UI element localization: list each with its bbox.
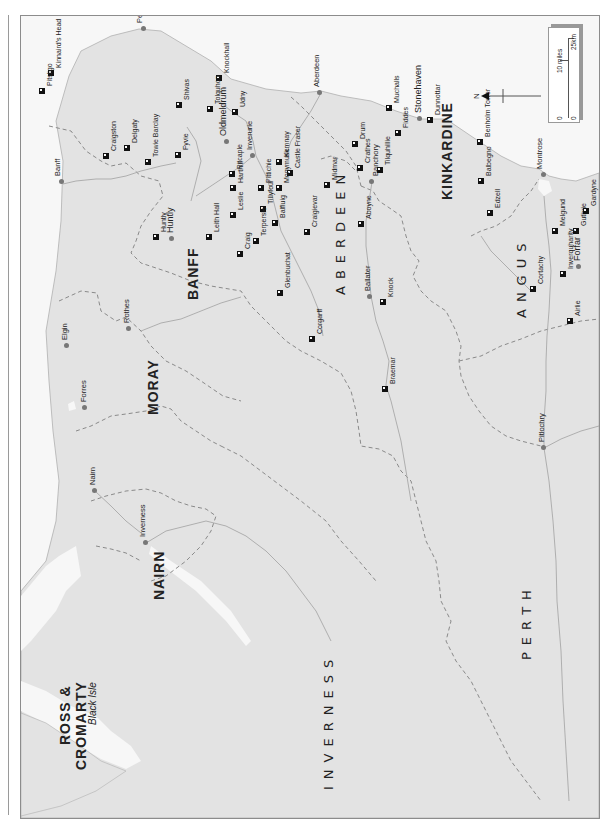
county-label-perth: PERTH (520, 583, 533, 660)
castle-icon (477, 139, 483, 145)
castle-icon (103, 153, 109, 159)
castle-label-delgaty: Delgaty (131, 119, 138, 143)
north-arrow: N (473, 89, 543, 107)
town-label-forfar: Forfar (573, 237, 582, 261)
town-dot-icon (317, 90, 322, 95)
castle-label-drum: Drum (359, 122, 366, 139)
castle-icon (229, 171, 235, 177)
town-dot-icon (126, 326, 131, 331)
castle-icon (309, 336, 315, 342)
castle-label-craigievar: Craigievar (311, 195, 318, 227)
scale-bar-line (568, 38, 569, 118)
castle-label-knockhall: Knockhall (223, 43, 230, 73)
castle-icon (276, 159, 282, 165)
town-label-peterhead: Peterhead (136, 15, 144, 23)
castle-label-tolquhon: Tolquhon (214, 76, 221, 104)
town-dot-icon (82, 405, 87, 410)
county-label-aberdeen: ABERDEEN (334, 168, 347, 295)
castle-label-gardyne: Gardyne (590, 179, 597, 206)
castle-label-tilquhillie: Tilquhillie (384, 136, 391, 165)
castle-label-leslie: Leslie (237, 192, 244, 210)
land-mass (21, 29, 599, 818)
castle-label-shivas: Shivas (183, 79, 190, 100)
county-label-moray: MORAY (146, 359, 160, 415)
town-dot-icon (169, 236, 174, 241)
castle-label-glenbuchat: Glenbuchat (284, 252, 291, 288)
castle-label-castle-fraser: Castle Fraser (294, 126, 301, 168)
castle-icon (276, 185, 282, 191)
castle-label-melgund: Melgund (559, 199, 566, 226)
castle-icon (272, 220, 278, 226)
scale-bar: 10 miles 25km 0 0 (548, 27, 580, 123)
county-label-cromarty: CROMARTY (74, 681, 88, 770)
castle-label-corgarff: Corgarff (316, 309, 323, 334)
town-label-rothes: Rothes (123, 299, 131, 323)
castle-label-harthill: Harthill (237, 161, 244, 183)
scale-label-zero-miles: 0 (556, 116, 563, 120)
town-dot-icon (367, 294, 372, 299)
castle-icon (357, 165, 363, 171)
castle-icon (487, 210, 493, 216)
town-label-nairn: Nairn (89, 467, 97, 485)
town-label-inverurie: Inverurie (246, 121, 254, 150)
castle-label-towie-barclay: Towie Barclay (152, 114, 159, 157)
castle-label-braemar: Braemar (389, 357, 396, 384)
town-label-stonehaven: Stonehaven (414, 65, 423, 113)
town-dot-icon (250, 153, 255, 158)
castle-icon (258, 185, 264, 191)
county-label-kinkardine: KINKARDINE (440, 102, 454, 200)
castle-label-pitsligo: Pitsligo (46, 63, 53, 86)
castle-icon (560, 271, 566, 277)
castle-icon (567, 318, 573, 324)
town-label-pitlochry: Pitlochry (538, 413, 546, 442)
castle-label-monymusk: Monymusk (283, 149, 290, 183)
castle-icon (386, 105, 392, 111)
castle-icon (380, 299, 386, 305)
castle-icon (478, 178, 484, 184)
town-label-ballater: Ballater (364, 266, 372, 291)
island-label-black-isle: Black Isle (88, 682, 98, 725)
castle-icon (382, 386, 388, 392)
castle-icon (124, 145, 130, 151)
castle-label-knock: Knock (387, 278, 394, 297)
castle-icon (583, 208, 589, 214)
county-label-inverness: INVERNESS (322, 653, 335, 790)
map-canvas (21, 16, 599, 818)
castle-label-drum-huntly: Huntly (160, 212, 167, 232)
castle-icon (530, 286, 536, 292)
castle-label-balbegno: Balbegno (485, 146, 492, 176)
town-dot-icon (417, 116, 422, 121)
north-label: N (472, 93, 481, 99)
town-label-banff: Banff (54, 159, 62, 176)
castle-icon (207, 106, 213, 112)
castle-label-cortachy: Cortachy (537, 256, 544, 284)
castle-icon (232, 109, 238, 115)
castle-icon (352, 141, 358, 147)
castle-label-terpersie: Terpersie (260, 207, 267, 236)
castle-label-balfluig: Balfluig (279, 195, 286, 218)
castle-icon (304, 229, 310, 235)
castle-icon (153, 234, 159, 240)
town-dot-icon (59, 179, 64, 184)
castle-label-aboyne: Aboyne (365, 195, 372, 219)
castle-icon (206, 234, 212, 240)
castle-icon (324, 182, 330, 188)
castle-icon (39, 88, 45, 94)
castle-icon (145, 159, 151, 165)
castle-label-crathes: Crathes (364, 138, 371, 163)
castle-icon (358, 221, 364, 227)
map-frame[interactable]: ROSS &CROMARTYNAIRNMORAYBANFFINVERNESSAB… (20, 15, 600, 819)
scale-label-miles: 10 miles (556, 49, 563, 73)
county-label-angus: ANGUS (515, 237, 528, 318)
castle-label-craigston: Craigston (110, 121, 117, 151)
town-label-inverness: Inverness (139, 504, 147, 537)
castle-label-leith-hall: Leith Hall (213, 203, 220, 232)
castle-icon (552, 228, 558, 234)
castle-label-inverquharity: Inverquharity (567, 229, 574, 269)
scale-label-zero-km: 0 (570, 116, 577, 120)
county-label-banff: BANFF (186, 248, 200, 300)
castle-label-craig: Craig (244, 232, 251, 249)
county-label-ross: ROSS & (58, 685, 72, 745)
county-label-nairn: NAIRN (152, 551, 166, 600)
town-dot-icon (224, 139, 229, 144)
